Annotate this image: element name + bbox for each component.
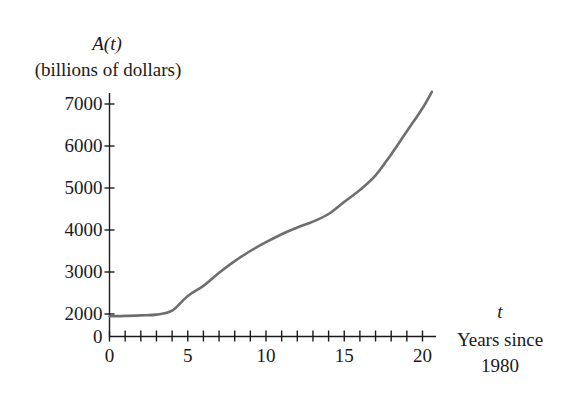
x-tick-label: 0: [105, 345, 115, 366]
y-tick-label: 0: [93, 326, 103, 347]
y-tick-label: 7000: [65, 93, 103, 114]
y-axis-title: A(t): [90, 33, 122, 55]
y-axis-ticks: 0200030004000500060007000: [65, 93, 115, 347]
x-axis-title: Years since: [457, 329, 543, 350]
y-tick-label: 6000: [65, 135, 103, 156]
line-chart: A(t) (billions of dollars) t Years since…: [0, 0, 575, 397]
data-curve-A-of-t: [110, 92, 432, 316]
x-tick-label: 15: [335, 345, 354, 366]
x-axis-variable: t: [497, 301, 503, 322]
x-tick-label: 20: [413, 345, 432, 366]
y-tick-label: 2000: [65, 303, 103, 324]
y-axis-units: (billions of dollars): [35, 59, 182, 81]
y-tick-label: 3000: [65, 261, 103, 282]
y-tick-label: 5000: [65, 177, 103, 198]
x-axis-title-year: 1980: [481, 355, 519, 376]
x-axis-ticks: 05101520: [105, 331, 432, 366]
x-tick-label: 5: [183, 345, 193, 366]
y-tick-label: 4000: [65, 219, 103, 240]
x-tick-label: 10: [257, 345, 276, 366]
